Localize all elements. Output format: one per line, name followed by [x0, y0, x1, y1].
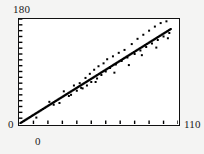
y-axis-max-label: 180	[13, 4, 30, 15]
x-axis-min-label: 0	[35, 136, 41, 147]
x-axis-max-label: 110	[184, 119, 201, 130]
y-axis-min-label: 0	[8, 119, 14, 130]
y-axis-ticks	[19, 19, 22, 118]
data-points-layer	[19, 20, 171, 124]
plot-frame	[18, 18, 180, 126]
scatter-plot-figure: 180 0 110 0	[0, 0, 204, 154]
x-axis-ticks	[33, 121, 178, 124]
plot-canvas	[19, 19, 178, 124]
